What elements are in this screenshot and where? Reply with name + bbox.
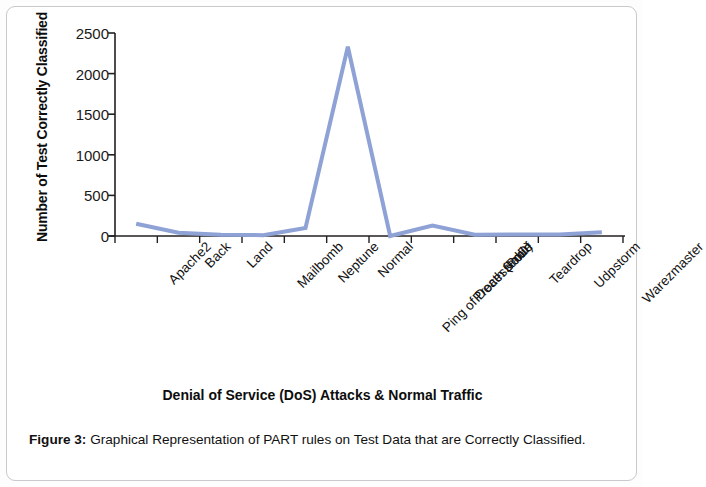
plot-axes [115,33,623,236]
y-axis-title: Number of Test Correctly Classified [34,2,50,252]
x-axis-category-label: Teardrop [547,239,595,287]
y-axis-tick-label: 2000 [76,65,109,82]
chart-area: Number of Test Correctly Classified 0500… [7,7,638,417]
x-axis-category-label: Land [244,239,276,271]
data-series-line [136,47,602,236]
x-axis-tick-labels: Apache2BackLandMailbombNeptuneNormalPing… [115,239,645,349]
figure-frame: Number of Test Correctly Classified 0500… [6,6,637,481]
line-chart-svg [115,33,623,236]
caption-label: Figure 3: [29,432,86,447]
x-axis-category-label: Udpstorm [591,239,643,291]
x-axis-title: Denial of Service (DoS) Attacks & Normal… [7,387,638,403]
y-axis-tick-label: 1500 [76,106,109,123]
y-axis-tick-label: 2500 [76,25,109,42]
caption-divider [14,421,643,422]
caption-text: Graphical Representation of PART rules o… [86,432,585,447]
x-axis-category-label: Smurf [499,239,535,275]
x-axis-category-label: Normal [375,239,416,280]
y-axis-tick-label: 500 [84,187,109,204]
x-axis-category-label: Warezmaster [639,239,706,306]
y-axis-tick-label: 1000 [76,146,109,163]
plot-region: 05001000150020002500 [55,33,625,248]
x-axis-category-label: Mailbomb [294,239,346,291]
y-axis-tick-label: 0 [101,228,109,245]
y-axis-tick-labels: 05001000150020002500 [55,33,109,228]
figure-caption: Figure 3: Graphical Representation of PA… [29,431,623,450]
